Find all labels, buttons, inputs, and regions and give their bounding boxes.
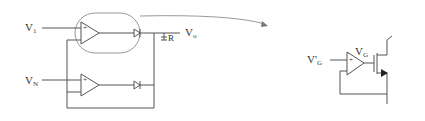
zoom-arrow	[140, 16, 265, 24]
plus-top: +	[83, 24, 87, 32]
label-vn: VN	[25, 74, 38, 88]
label-v1: V1	[25, 21, 37, 35]
diode-bottom	[134, 81, 140, 89]
label-r: R	[168, 33, 174, 43]
label-vg-prime: V'G	[307, 53, 322, 67]
diode-top	[134, 29, 140, 37]
label-vg: VG	[355, 45, 368, 59]
plus-right: +	[349, 56, 353, 64]
plus-bottom: +	[83, 76, 87, 84]
diagram-canvas: V1 VN Vo R + + V'G VG +	[0, 0, 425, 121]
label-vo: Vo	[185, 26, 197, 40]
